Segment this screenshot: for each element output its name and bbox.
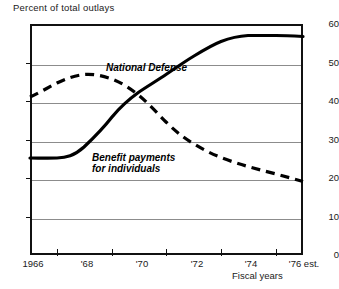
x-tick-mark-1973	[221, 249, 222, 256]
x-tick-mark-1969	[112, 249, 113, 256]
x-tick-mark-1971	[166, 249, 167, 256]
x-tick-label-1966: 1966	[22, 258, 43, 269]
gridline-10	[32, 219, 301, 220]
y-tick-mark-10	[26, 217, 30, 218]
x-tick-label-1968: '68	[81, 258, 93, 269]
y-tick-mark-30	[26, 140, 30, 141]
y-tick-label-10: 10	[315, 212, 339, 222]
fiscal-outlays-chart: Percent of total outlays 60 50 40 30 20 …	[0, 0, 339, 289]
x-tick-label-1970: '70	[136, 258, 148, 269]
x-tick-label-1974: '74	[245, 258, 257, 269]
x-tick-label-1972: '72	[191, 258, 203, 269]
x-axis-title: Fiscal years	[232, 270, 283, 281]
y-tick-label-20: 20	[315, 173, 339, 183]
y-tick-mark-40	[26, 101, 30, 102]
series-label-national-defense: National Defense	[106, 62, 187, 73]
x-tick-label-1976: '76 est.	[289, 258, 319, 269]
gridline-20	[32, 180, 301, 181]
y-tick-mark-50	[26, 63, 30, 64]
plot-area	[30, 24, 303, 255]
y-tick-mark-20	[26, 178, 30, 179]
gridline-40	[32, 103, 301, 104]
series-label-benefit-payments-line2: for individuals	[92, 163, 160, 174]
y-tick-label-30: 30	[315, 135, 339, 145]
x-tick-mark-1975	[276, 249, 277, 256]
series-label-benefit-payments-line1: Benefit payments	[92, 152, 175, 163]
y-axis-title: Percent of total outlays	[13, 2, 114, 13]
y-tick-label-60: 60	[315, 19, 339, 29]
x-tick-mark-1967	[57, 249, 58, 256]
gridline-30	[32, 142, 301, 143]
y-tick-label-40: 40	[315, 96, 339, 106]
y-tick-label-50: 50	[315, 58, 339, 68]
